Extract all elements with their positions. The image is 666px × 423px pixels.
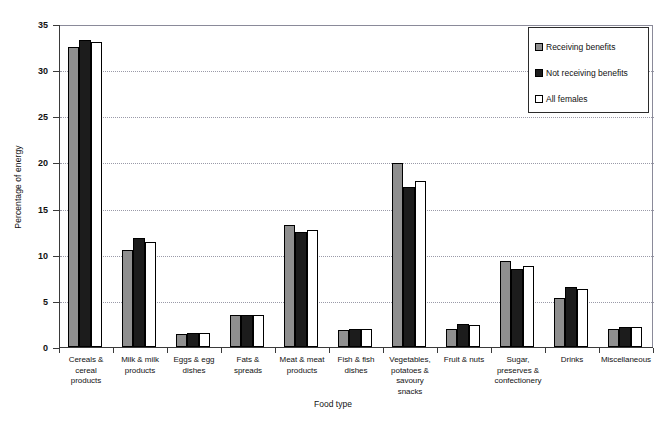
- y-axis-tick-label: 10: [18, 251, 48, 261]
- bar: [500, 261, 511, 347]
- bar: [68, 47, 79, 347]
- y-axis-tick: [53, 25, 59, 26]
- bar: [446, 329, 457, 347]
- bar: [523, 266, 534, 347]
- bar: [619, 327, 630, 347]
- x-axis-label-line: cereal: [75, 366, 97, 375]
- legend-swatch-icon: [535, 43, 543, 51]
- bar: [307, 230, 318, 347]
- bar: [295, 232, 306, 347]
- y-axis-tick-label: 25: [18, 112, 48, 122]
- bar: [79, 40, 90, 347]
- x-axis-label-line: Vegetables,: [389, 355, 430, 364]
- x-axis-label-line: spreads: [234, 366, 262, 375]
- bar: [392, 163, 403, 347]
- x-axis-label-line: confectionery: [495, 376, 542, 385]
- x-axis-category-label: Miscellaneous: [593, 355, 659, 366]
- y-axis-tick-label: 30: [18, 66, 48, 76]
- bar: [176, 334, 187, 347]
- bar: [338, 330, 349, 347]
- x-axis-label-line: Fruit & nuts: [444, 355, 484, 364]
- x-axis-label-line: dishes: [345, 366, 368, 375]
- x-axis-label-line: products: [287, 366, 317, 375]
- x-axis-label-line: savoury: [396, 376, 424, 385]
- x-axis-tick: [383, 348, 384, 353]
- x-axis-tick: [59, 348, 60, 353]
- legend-item-all-females: All females: [535, 93, 588, 105]
- bar: [145, 242, 156, 347]
- y-axis-tick-label: 5: [18, 297, 48, 307]
- x-axis-label-line: products: [125, 366, 155, 375]
- bar: [608, 329, 619, 347]
- y-axis-tick-label: 20: [18, 158, 48, 168]
- bar: [415, 181, 426, 347]
- x-axis-tick: [653, 348, 654, 353]
- bar: [403, 187, 414, 347]
- y-axis-tick: [53, 302, 59, 303]
- bar: [469, 325, 480, 347]
- x-axis-tick: [491, 348, 492, 353]
- x-axis-label-line: Miscellaneous: [601, 355, 651, 364]
- y-axis-tick-label: 0: [18, 343, 48, 353]
- x-axis-label-line: Eggs & egg: [174, 355, 215, 364]
- x-axis-tick: [545, 348, 546, 353]
- y-axis-tick: [53, 163, 59, 164]
- y-axis-tick-label: 35: [18, 20, 48, 30]
- legend-label: Receiving benefits: [546, 42, 615, 52]
- y-axis-tick: [53, 210, 59, 211]
- gridline: [60, 117, 654, 118]
- bar: [230, 315, 241, 347]
- bar: [284, 225, 295, 347]
- bar: [133, 238, 144, 347]
- x-axis-label-line: Milk & milk: [121, 355, 159, 364]
- bar: [253, 315, 264, 347]
- x-axis-label-line: Cereals &: [69, 355, 104, 364]
- bar: [122, 250, 133, 347]
- bar: [631, 327, 642, 347]
- x-axis-tick: [167, 348, 168, 353]
- x-axis-tick: [275, 348, 276, 353]
- gridline: [60, 210, 654, 211]
- x-axis-label-line: preserves &: [497, 366, 539, 375]
- y-axis-tick: [53, 256, 59, 257]
- x-axis-tick: [437, 348, 438, 353]
- legend-label: Not receiving benefits: [546, 68, 628, 78]
- legend-item-not-receiving-benefits: Not receiving benefits: [535, 67, 628, 79]
- y-axis-tick: [53, 117, 59, 118]
- x-axis-tick: [599, 348, 600, 353]
- x-axis-label-line: dishes: [183, 366, 206, 375]
- bar: [577, 289, 588, 347]
- x-axis-label-line: Sugar,: [507, 355, 530, 364]
- x-axis-label-line: Fats &: [237, 355, 260, 364]
- bar-chart: Percentage of energy 05101520253035 Cere…: [0, 0, 666, 423]
- legend-swatch-icon: [535, 69, 543, 77]
- y-axis-tick: [53, 71, 59, 72]
- x-axis-label-line: Drinks: [561, 355, 583, 364]
- legend-label: All females: [546, 94, 588, 104]
- bar: [199, 333, 210, 347]
- x-axis-label-line: snacks: [398, 387, 423, 396]
- x-axis-label-line: potatoes &: [391, 366, 429, 375]
- bar: [361, 329, 372, 347]
- legend-swatch-icon: [535, 95, 543, 103]
- x-axis-tick: [113, 348, 114, 353]
- x-axis-label-line: Meat & meat: [280, 355, 325, 364]
- bar: [565, 287, 576, 347]
- bar: [349, 329, 360, 347]
- chart-legend: Receiving benefits Not receiving benefit…: [528, 27, 649, 113]
- bar: [187, 333, 198, 347]
- legend-item-receiving-benefits: Receiving benefits: [535, 41, 615, 53]
- gridline: [60, 163, 654, 164]
- x-axis-label-line: Fish & fish: [338, 355, 375, 364]
- y-axis-title: Percentage of energy: [13, 117, 23, 257]
- y-axis-tick-label: 15: [18, 205, 48, 215]
- bar: [554, 298, 565, 347]
- x-axis-label-line: products: [71, 376, 101, 385]
- x-axis-tick: [329, 348, 330, 353]
- bar: [241, 315, 252, 347]
- bar: [457, 324, 468, 347]
- bar: [511, 269, 522, 347]
- bar: [91, 42, 102, 347]
- x-axis-tick: [221, 348, 222, 353]
- x-axis-title: Food type: [0, 399, 666, 409]
